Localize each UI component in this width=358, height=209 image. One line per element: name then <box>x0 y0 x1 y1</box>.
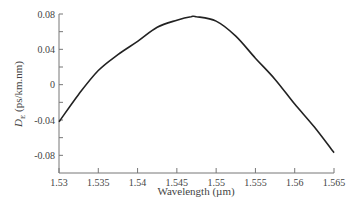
x-tick-label: 1.535 <box>87 177 110 188</box>
x-tick-label: 1.53 <box>50 177 68 188</box>
y-tick-label: 0 <box>50 79 55 90</box>
y-axis-title: DE (ps/km.nm) <box>12 61 27 128</box>
x-tick-label: 1.54 <box>129 177 147 188</box>
x-tick-label: 1.565 <box>323 177 346 188</box>
dispersion-curve <box>59 16 334 153</box>
x-axis-title: Wavelength (µm) <box>157 185 235 198</box>
y-tick-label: 0.04 <box>38 44 56 55</box>
y-tick-label: -0.08 <box>34 150 55 161</box>
x-tick-label: 1.56 <box>286 177 304 188</box>
y-tick-label: 0.08 <box>38 9 56 20</box>
axes <box>59 14 334 173</box>
y-tick-label: -0.04 <box>34 115 55 126</box>
x-tick-label: 1.555 <box>244 177 267 188</box>
dispersion-chart: 0.080.040-0.04-0.08 1.531.5351.541.5451.… <box>0 0 358 209</box>
